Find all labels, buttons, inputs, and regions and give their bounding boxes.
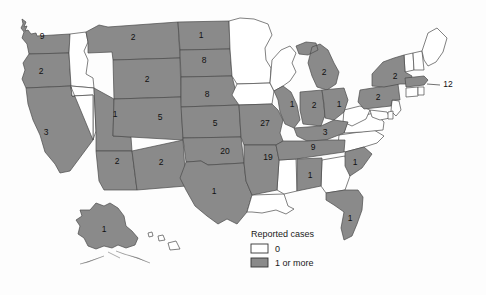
legend-label-zero: 0: [275, 244, 280, 254]
state-value-in: 2: [312, 100, 317, 110]
legend-label-one-or-more: 1 or more: [275, 258, 314, 268]
state-value-ar: 19: [263, 152, 273, 162]
map-region-alaska: [76, 203, 150, 264]
state-connecticut[interactable]: [406, 87, 418, 97]
state-value-sd: 8: [202, 55, 207, 65]
legend-swatch-zero[interactable]: [251, 244, 268, 253]
state-maine[interactable]: [422, 28, 447, 66]
state-value-ne: 8: [205, 89, 210, 99]
state-value-ks: 5: [213, 118, 218, 128]
state-florida[interactable]: [326, 190, 363, 240]
state-louisiana[interactable]: [247, 194, 294, 214]
legend-swatch-one-or-more[interactable]: [251, 258, 268, 267]
state-value-nm: 2: [159, 157, 164, 167]
map-region-mountain: [86, 22, 186, 190]
state-value-mi: 2: [322, 67, 327, 77]
state-washington[interactable]: [21, 19, 70, 54]
state-alaska[interactable]: [76, 203, 138, 249]
state-value-ok: 20: [220, 146, 230, 156]
state-value-ca: 3: [44, 127, 49, 137]
state-kansas[interactable]: [181, 105, 241, 138]
state-vermont[interactable]: [404, 53, 414, 72]
legend: Reported cases 0 1 or more: [251, 229, 315, 268]
state-minnesota[interactable]: [229, 18, 272, 84]
state-massachusetts[interactable]: [405, 76, 428, 87]
state-value-al: 1: [308, 170, 313, 180]
state-value-ut: 1: [113, 109, 118, 119]
state-nebraska[interactable]: [181, 76, 239, 107]
state-oklahoma[interactable]: [183, 137, 244, 165]
alaska-aleutian-islands: [80, 251, 150, 264]
state-delaware[interactable]: [388, 111, 393, 119]
state-north-dakota[interactable]: [178, 21, 230, 50]
state-value-or: 2: [39, 66, 44, 76]
state-value-az: 2: [115, 156, 120, 166]
state-value-sc: 1: [353, 157, 358, 167]
state-value-ky: 3: [323, 127, 328, 137]
state-value-wa: 9: [40, 31, 45, 41]
state-iowa[interactable]: [232, 83, 274, 105]
state-value-pa: 2: [376, 92, 381, 102]
state-value-fl: 1: [348, 213, 353, 223]
state-oregon[interactable]: [22, 53, 71, 88]
state-mississippi[interactable]: [277, 159, 297, 194]
state-colorado[interactable]: [113, 97, 183, 140]
state-south-carolina[interactable]: [345, 147, 372, 176]
state-value-mo: 27: [260, 118, 270, 128]
state-value-oh: 1: [337, 99, 342, 109]
state-value-wy: 2: [145, 74, 150, 84]
state-value-il: 1: [290, 99, 295, 109]
state-arkansas[interactable]: [244, 145, 279, 195]
state-value-tn: 9: [311, 142, 316, 152]
state-value-nd: 1: [199, 30, 204, 40]
state-rhode-island[interactable]: [418, 87, 424, 95]
state-value-ma: 12: [443, 79, 453, 89]
massachusetts-leader-line: [427, 84, 440, 85]
state-value-ak: 1: [102, 224, 107, 234]
state-value-mt: 2: [131, 32, 136, 42]
choropleth-figure: 9232215221885201271912213911122121 Repor…: [0, 0, 486, 295]
legend-title: Reported cases: [251, 229, 315, 239]
map-region-west: [21, 19, 96, 173]
state-value-ny: 2: [393, 71, 398, 81]
us-map: 9232215221885201271912213911122121 Repor…: [0, 0, 486, 295]
state-wisconsin[interactable]: [270, 46, 296, 91]
state-value-tx: 1: [212, 186, 217, 196]
state-value-co: 5: [158, 112, 163, 122]
state-hawaii[interactable]: [148, 232, 180, 250]
state-michigan[interactable]: [296, 42, 339, 90]
